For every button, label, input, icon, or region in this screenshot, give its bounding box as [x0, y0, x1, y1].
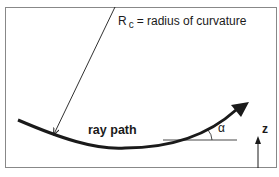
z-axis-label: z: [262, 122, 268, 136]
z-axis-arrowhead: [255, 136, 261, 144]
frame: [6, 8, 277, 168]
ray-arrowhead: [231, 102, 249, 117]
radius-definition: = radius of curvature: [137, 14, 247, 28]
radius-subscript: c: [129, 19, 134, 30]
radius-symbol: R: [118, 14, 127, 28]
radius-of-curvature-label: Rc= radius of curvature: [118, 14, 246, 28]
radius-line: [54, 7, 115, 134]
angle-arc: [208, 130, 212, 140]
angle-label: α: [218, 121, 225, 135]
ray-path-label: ray path: [88, 123, 137, 137]
